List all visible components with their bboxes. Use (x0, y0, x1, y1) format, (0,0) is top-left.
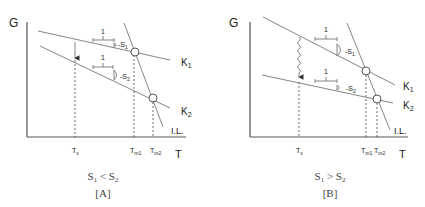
axis-x-label: T (175, 148, 182, 160)
k1-melting-point-circle (131, 48, 139, 56)
wavy-transition-arrow (298, 37, 301, 77)
tx-tick-label: Tx (72, 147, 79, 156)
k1-melting-point-circle (362, 67, 370, 75)
tm1-tick-label: Tm1 (361, 147, 372, 156)
axis-x-label: T (399, 148, 406, 160)
slope-triangle-k2: 1 -S2 (93, 54, 130, 82)
slope-s2-label: -S2 (346, 85, 356, 94)
tm2-tick-label: Tm2 (150, 147, 161, 156)
tm2-tick-label: Tm2 (374, 147, 385, 156)
k1-label: K1 (181, 57, 192, 69)
slope-run-k1: 1 (101, 28, 105, 35)
axis-y-label: G (229, 16, 238, 30)
panel-b: G 1 -S1 1 -S2 (229, 16, 414, 199)
il-line (347, 23, 390, 130)
panel-a: G 1 -S1 1 -S2 (9, 16, 192, 199)
k2-label: K2 (181, 106, 192, 118)
il-line (124, 23, 163, 127)
slope-s2-label: -S2 (120, 73, 130, 82)
condition-label: S1 < S2 (88, 170, 119, 184)
slope-s1-label: -S1 (345, 48, 355, 57)
k2-melting-point-circle (149, 94, 157, 102)
slope-triangle-k1: 1 -S1 (315, 26, 355, 57)
k1-line (263, 17, 395, 85)
il-label: I.L. (394, 126, 407, 136)
axis-y-label: G (9, 16, 18, 30)
il-label: I.L. (171, 126, 184, 136)
slope-run-k1: 1 (324, 26, 328, 33)
k2-label: K2 (403, 100, 414, 112)
slope-triangle-k2: 1 -S2 (315, 68, 356, 94)
panel-caption: [A] (95, 187, 110, 199)
tx-tick-label: Tx (296, 147, 303, 156)
slope-run-k2: 1 (324, 68, 328, 75)
diagram-canvas: G 1 -S1 1 -S2 (0, 0, 425, 207)
tm1-tick-label: Tm1 (130, 147, 141, 156)
panel-caption: [B] (323, 187, 338, 199)
condition-label: S1 > S2 (315, 170, 346, 184)
k2-melting-point-circle (373, 95, 381, 103)
slope-run-k2: 1 (101, 54, 105, 61)
k1-label: K1 (403, 81, 414, 93)
